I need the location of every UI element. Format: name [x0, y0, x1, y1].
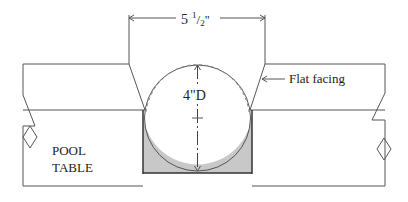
left-rail-facing: [23, 64, 145, 110]
left-diamond-sight: [23, 126, 37, 148]
pool-label: POOL: [52, 143, 86, 158]
pool-pocket-diagram: 51/2" 4"D Flat facing POOL TABLE: [0, 0, 408, 202]
diameter-label: 4"D: [183, 88, 206, 103]
flat-facing-label: Flat facing: [289, 71, 345, 86]
table-label: TABLE: [52, 160, 93, 175]
right-diamond-sight: [377, 138, 384, 160]
